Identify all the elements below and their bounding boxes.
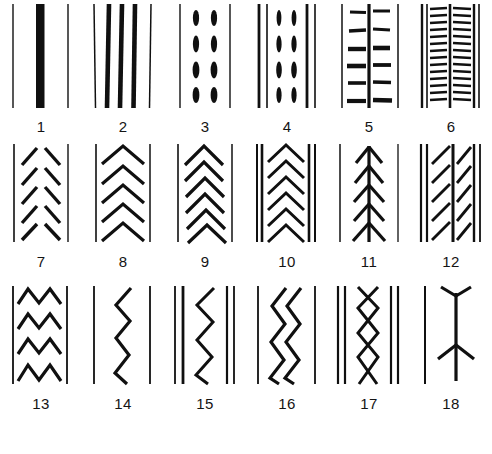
motif-caption-14: 14: [114, 396, 132, 411]
motif-figure-2: [82, 0, 164, 112]
motif-figure-16: [246, 283, 328, 387]
motif-caption-15: 15: [196, 396, 214, 411]
motif-figure-4: [246, 0, 328, 112]
motif-figure-14: [82, 283, 164, 387]
motif-cell-14[interactable]: 14: [82, 283, 164, 424]
motif-caption-17: 17: [360, 396, 378, 411]
motif-figure-11: [328, 141, 410, 245]
motif-cell-18[interactable]: 18: [410, 283, 492, 424]
motif-caption-16: 16: [278, 396, 296, 411]
motif-cell-11[interactable]: 11: [328, 141, 410, 282]
motif-caption-6: 6: [447, 119, 456, 134]
motif-caption-3: 3: [201, 119, 210, 134]
motif-caption-9: 9: [201, 254, 210, 269]
motif-cell-6[interactable]: 6: [410, 0, 492, 141]
motif-figure-15: [164, 283, 246, 387]
motif-caption-13: 13: [32, 396, 50, 411]
motif-figure-10: [246, 141, 328, 245]
motif-cell-2[interactable]: 2: [82, 0, 164, 141]
motif-caption-4: 4: [283, 119, 292, 134]
motif-grid: 1 2: [0, 0, 492, 424]
motif-cell-5[interactable]: 5: [328, 0, 410, 141]
motif-figure-17: [328, 283, 410, 387]
motif-cell-15[interactable]: 15: [164, 283, 246, 424]
motif-figure-7: [0, 141, 82, 245]
motif-caption-1: 1: [37, 119, 46, 134]
motif-figure-5: [328, 0, 410, 112]
motif-cell-7[interactable]: 7: [0, 141, 82, 282]
motif-caption-11: 11: [361, 254, 377, 269]
motif-figure-3: [164, 0, 246, 112]
motif-figure-18: [410, 283, 492, 387]
motif-caption-7: 7: [37, 254, 46, 269]
motif-cell-12[interactable]: 12: [410, 141, 492, 282]
motif-cell-10[interactable]: 10: [246, 141, 328, 282]
motif-cell-9[interactable]: 9: [164, 141, 246, 282]
motif-caption-10: 10: [278, 254, 296, 269]
motif-figure-13: [0, 283, 82, 387]
motif-figure-9: [164, 141, 246, 245]
motif-cell-3[interactable]: 3: [164, 0, 246, 141]
motif-plate: 1 2: [0, 0, 492, 454]
motif-figure-8: [82, 141, 164, 245]
motif-figure-6: [410, 0, 492, 112]
motif-caption-12: 12: [442, 254, 460, 269]
motif-caption-18: 18: [442, 396, 460, 411]
motif-figure-12: [410, 141, 492, 245]
motif-caption-5: 5: [365, 119, 374, 134]
motif-cell-4[interactable]: 4: [246, 0, 328, 141]
motif-cell-16[interactable]: 16: [246, 283, 328, 424]
motif-caption-2: 2: [119, 119, 128, 134]
motif-caption-8: 8: [119, 254, 128, 269]
motif-cell-8[interactable]: 8: [82, 141, 164, 282]
motif-cell-1[interactable]: 1: [0, 0, 82, 141]
motif-cell-13[interactable]: 13: [0, 283, 82, 424]
motif-figure-1: [0, 0, 82, 112]
motif-cell-17[interactable]: 17: [328, 283, 410, 424]
